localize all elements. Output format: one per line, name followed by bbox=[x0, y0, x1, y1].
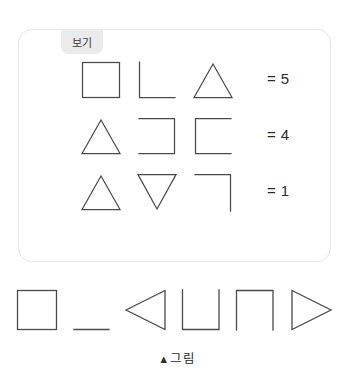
figure-caption: ▲그림 bbox=[0, 348, 353, 367]
shape-corner-top-right bbox=[189, 163, 237, 219]
shape-arch bbox=[228, 283, 282, 345]
shape-triangle-right bbox=[284, 283, 338, 345]
caption-text: 그림 bbox=[170, 352, 194, 366]
shape-bracket-open-left bbox=[133, 107, 181, 163]
shape-triangle-left bbox=[120, 283, 174, 345]
example-panel: 보기 =5 bbox=[18, 29, 331, 262]
equation-value: 1 bbox=[281, 182, 289, 199]
equals-sign: = bbox=[267, 182, 276, 199]
shape-triangle-up bbox=[189, 51, 237, 107]
shape-triangle-up bbox=[77, 163, 125, 219]
example-tab-text: 보기 bbox=[72, 34, 93, 50]
shape-corner-bottom-left bbox=[133, 51, 181, 107]
example-equation-row: =4 bbox=[19, 107, 330, 163]
shape-square bbox=[12, 283, 66, 345]
equals-sign: = bbox=[267, 70, 276, 87]
shape-triangle-up bbox=[77, 107, 125, 163]
shape-triangle-down bbox=[133, 163, 181, 219]
equation-value: 5 bbox=[281, 70, 289, 87]
caption-marker-icon: ▲ bbox=[158, 353, 169, 365]
equation-result: =5 bbox=[267, 51, 289, 107]
equals-sign: = bbox=[267, 126, 276, 143]
example-equation-row: =5 bbox=[19, 51, 330, 107]
shape-u bbox=[174, 283, 228, 345]
shape-horizontal-line bbox=[66, 283, 120, 345]
equation-shape-strip bbox=[71, 163, 246, 219]
shape-square bbox=[77, 51, 125, 107]
equation-value: 4 bbox=[281, 126, 289, 143]
example-equation-row: =1 bbox=[19, 163, 330, 219]
equation-result: =1 bbox=[267, 163, 289, 219]
answer-shape-row bbox=[0, 283, 353, 345]
equation-shape-strip bbox=[71, 51, 246, 107]
shape-bracket-open-right bbox=[189, 107, 237, 163]
equation-result: =4 bbox=[267, 107, 289, 163]
equation-shape-strip bbox=[71, 107, 246, 163]
